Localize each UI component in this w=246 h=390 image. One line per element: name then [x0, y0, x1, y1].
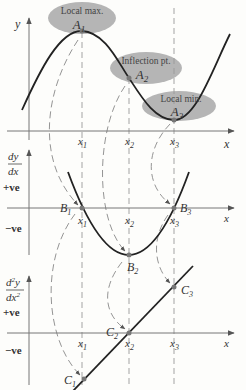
bottom-negative-label: −ve [5, 344, 22, 356]
point-b3 [172, 206, 177, 211]
point-b2 [127, 253, 132, 258]
point-c3 [172, 285, 177, 290]
mid-tick-x2: x2 [124, 214, 134, 229]
svg-text:d2y: d2y [6, 276, 20, 288]
mid-x-label: x [223, 212, 229, 224]
top-tick-x1: x1 [77, 135, 87, 150]
local-min-label: Local min. [160, 94, 201, 104]
c1-label: C1 [64, 373, 76, 389]
mid-tick-x3: x3 [169, 214, 179, 229]
bottom-tick-x3: x3 [169, 337, 179, 352]
b3-label: B3 [180, 201, 191, 217]
svg-text:dy: dy [8, 150, 19, 162]
point-b1 [80, 206, 85, 211]
local-max-label: Local max. [61, 6, 104, 16]
inflection-label: Inflection pt. [121, 56, 170, 66]
top-tick-x2: x2 [124, 135, 134, 150]
svg-text:dx2: dx2 [6, 291, 20, 303]
mid-positive-label: +ve [3, 181, 20, 193]
a2-letter: A [135, 67, 144, 82]
point-a2 [127, 76, 132, 81]
c2-label: C2 [106, 325, 118, 341]
bottom-tick-x1: x1 [77, 337, 87, 352]
derivative-diagram: Local max. A1 Inflection pt. A2 Local mi… [0, 0, 246, 390]
bottom-x-label: x [223, 337, 229, 349]
a1-letter: A [72, 17, 81, 32]
c3-label: C3 [181, 283, 193, 299]
svg-text:dx: dx [8, 165, 19, 177]
d2ydx2-label: d2y dx2 [6, 276, 24, 303]
bottom-positive-label: +ve [3, 306, 20, 318]
second-derivative-line [73, 266, 193, 390]
bottom-tick-x2: x2 [124, 337, 134, 352]
top-y-label: y [14, 17, 21, 31]
a3-letter: A [170, 104, 179, 119]
top-tick-x3: x3 [169, 135, 179, 150]
dydx-label: dy dx [8, 150, 22, 177]
point-c2 [127, 331, 132, 336]
top-x-label: x [223, 137, 230, 151]
b2-label: B2 [127, 260, 138, 276]
mid-tick-x1: x1 [77, 214, 87, 229]
point-c1 [82, 377, 87, 382]
mid-negative-label: −ve [5, 222, 22, 234]
b1-label: B1 [60, 201, 71, 217]
